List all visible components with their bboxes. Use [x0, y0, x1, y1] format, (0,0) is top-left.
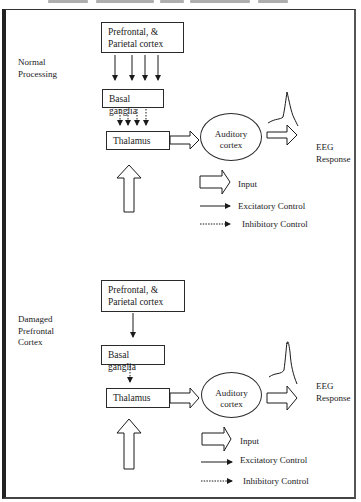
node-thalamus: Thalamus [106, 131, 170, 150]
node-label: Thalamus [113, 136, 150, 146]
legend-inhibitory-label: Inhibitory Control [243, 476, 309, 488]
panel-title-line: Damaged [18, 314, 54, 326]
node-label: Prefrontal, & [108, 284, 178, 296]
eeg-response-label: EEG Response [316, 142, 351, 165]
panel-title-normal: Normal Processing [18, 57, 57, 80]
eeg-label-line: Response [316, 154, 351, 166]
node-thalamus: Thalamus [106, 388, 170, 408]
node-label: Auditory [201, 129, 261, 140]
legend-input-label: Input [238, 179, 257, 191]
eeg-label-line: EEG [316, 142, 351, 154]
legend-input-label: Input [240, 436, 259, 448]
panel-title-line: Processing [18, 69, 57, 81]
node-auditory-cortex: Auditory cortex [200, 113, 262, 161]
eeg-label-line: EEG [316, 381, 351, 393]
eeg-response-label: EEG Response [316, 381, 351, 404]
node-label: cortex [202, 399, 261, 410]
legend-excitatory-label: Excitatory Control [238, 201, 305, 213]
node-prefrontal-parietal-cortex: Prefrontal, & Parietal cortex [101, 280, 185, 312]
node-label: Basal ganglia [108, 350, 136, 372]
node-label: Prefrontal, & [108, 26, 177, 38]
panel-title-line: Normal [18, 57, 57, 69]
legend-inhibitory-label: Inhibitory Control [242, 219, 308, 231]
panel-title-damaged: Damaged Prefrontal Cortex [18, 314, 54, 349]
eeg-label-line: Response [316, 393, 351, 405]
node-label: Parietal cortex [108, 38, 177, 50]
node-basal-ganglia: Basal ganglia [102, 89, 164, 108]
node-label: Parietal cortex [108, 296, 178, 308]
node-prefrontal-parietal-cortex: Prefrontal, & Parietal cortex [101, 22, 184, 53]
node-label: Basal ganglia [109, 94, 137, 116]
figure-frame [2, 9, 356, 499]
node-auditory-cortex: Auditory cortex [201, 372, 262, 418]
legend-excitatory-label: Excitatory Control [240, 455, 307, 467]
node-basal-ganglia: Basal ganglia [101, 345, 165, 365]
node-label: cortex [201, 140, 261, 151]
panel-title-line: Prefrontal [18, 326, 54, 338]
panel-title-line: Cortex [18, 337, 54, 349]
cropped-caption-fragment [0, 0, 361, 9]
node-label: Auditory [202, 388, 261, 399]
node-label: Thalamus [113, 393, 150, 403]
